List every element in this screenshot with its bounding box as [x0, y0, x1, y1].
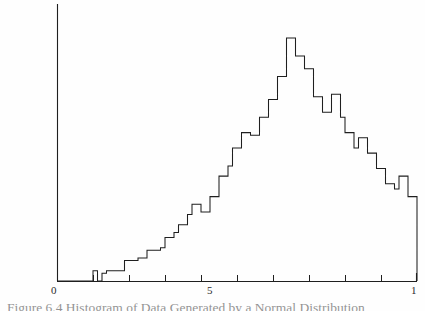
x-axis-label-middle: 5	[207, 285, 213, 296]
x-axis-ticks	[94, 275, 382, 281]
histogram-plot	[0, 0, 425, 300]
figure-container: 0 5 1 Figure 6.4 Histogram of Data Gener…	[0, 0, 425, 311]
x-axis-label-left: 0	[51, 285, 57, 296]
figure-caption: Figure 6.4 Histogram of Data Generated b…	[7, 300, 425, 311]
histogram-svg	[0, 0, 425, 300]
figure-caption-text: Figure 6.4 Histogram of Data Generated b…	[7, 300, 425, 311]
histogram-outline-path	[57, 38, 417, 281]
x-axis-label-right: 1	[411, 285, 417, 296]
